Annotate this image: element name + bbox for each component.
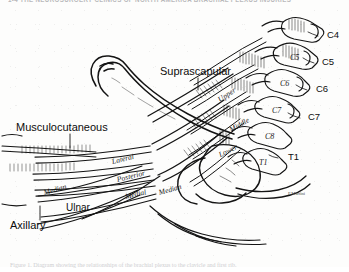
- label-vertebra-c6: C6: [280, 80, 289, 88]
- label-vertebra-c5: C5: [290, 54, 299, 62]
- label-musculocutaneous: Musculocutaneous: [16, 122, 108, 133]
- label-root-c5: C5: [322, 57, 334, 67]
- label-root-c4: C4: [327, 30, 339, 40]
- rib-curves: [150, 206, 266, 246]
- figure-caption: Figure 1. Diagram showing the relationsh…: [10, 262, 310, 272]
- label-vertebra-c8: C8: [265, 133, 274, 141]
- label-root-c7: C7: [308, 112, 320, 122]
- label-vertebra-t1: T1: [259, 159, 267, 167]
- label-root-t1: T1: [288, 152, 299, 162]
- nerve-roots-group: [187, 38, 266, 186]
- artist-signature: F.Martini: [288, 192, 305, 197]
- label-ulnar: Ulnar: [66, 203, 90, 213]
- brachial-plexus-illustration: Suprascapular Musculocutaneous Median Ul…: [0, 8, 349, 256]
- label-suprascapular: Suprascapular: [160, 66, 231, 77]
- label-vertebra-c7: C7: [272, 107, 281, 115]
- running-head: 1-4 THE NEUROSURGERY CLINICS OF NORTH AM…: [8, 0, 342, 5]
- label-axillary: Axillary: [10, 220, 45, 231]
- label-root-c6: C6: [316, 84, 328, 94]
